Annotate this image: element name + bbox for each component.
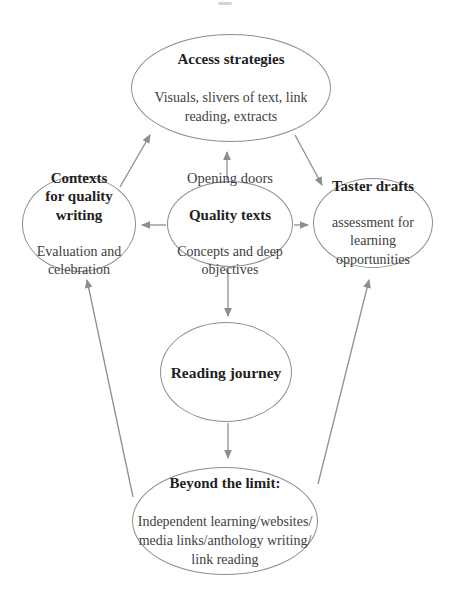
node-taster-drafts: Taster drafts assessment for learning op… xyxy=(313,178,433,268)
arrow-contexts-to-access-strategies xyxy=(120,135,150,187)
beyond-the-limit-body: Independent learning/websites/ media lin… xyxy=(138,512,313,569)
quality-texts-body: Concepts and deep objectives xyxy=(177,243,283,280)
access-strategies-title: Access strategies xyxy=(154,50,307,69)
node-reading-journey: Reading journey xyxy=(160,322,292,422)
node-access-strategies: Access strategies Visuals, slivers of te… xyxy=(131,34,331,142)
node-contexts-for-quality-writing: Contexts for quality writing Evaluation … xyxy=(22,176,136,272)
access-strategies-body: Visuals, slivers of text, link reading, … xyxy=(154,88,307,126)
reading-journey-title: Reading journey xyxy=(171,363,282,382)
beyond-the-limit-title: Beyond the limit: xyxy=(138,474,313,493)
node-beyond-the-limit: Beyond the limit: Independent learning/w… xyxy=(132,467,318,575)
quality-texts-title: Quality texts xyxy=(177,206,283,225)
quality-texts-pretitle: Opening doors xyxy=(177,169,283,188)
arrow-beyond-the-limit-to-taster-drafts xyxy=(318,280,369,484)
diagram-canvas: Access strategies Visuals, slivers of te… xyxy=(0,0,454,607)
contexts-title: Contexts for quality writing xyxy=(37,169,121,225)
arrow-beyond-the-limit-to-contexts xyxy=(87,280,133,497)
node-quality-texts: Opening doors Quality texts Concepts and… xyxy=(167,181,293,267)
taster-drafts-title: Taster drafts xyxy=(332,177,414,196)
contexts-body: Evaluation and celebration xyxy=(37,243,121,280)
taster-drafts-body: assessment for learning opportunities xyxy=(332,214,414,270)
